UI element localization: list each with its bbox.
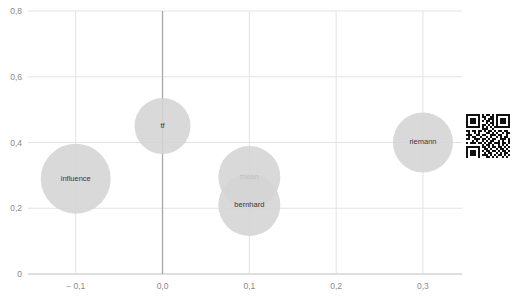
x-tick-label: 0,3 [417, 281, 429, 291]
bubble-label: influence [61, 174, 91, 183]
x-tick-label: 0,0 [157, 281, 169, 291]
bubble-point: tf [135, 98, 191, 154]
bubble-chart: influencetfmeanbernhardriemann − 0,10,00… [0, 0, 516, 301]
y-tick-label: 0 [17, 269, 22, 279]
bubble-point: riemann [393, 113, 453, 173]
bubble-label: riemann [409, 137, 436, 146]
x-axis-tick-labels: − 0,10,00,10,20,3 [66, 281, 429, 291]
qr-code-icon [466, 114, 510, 158]
x-tick-label: 0,1 [243, 281, 255, 291]
x-tick-label: − 0,1 [66, 281, 85, 291]
bubble-label: bernhard [234, 200, 264, 209]
bubble-point: influence [41, 144, 111, 214]
y-tick-label: 0,8 [10, 6, 22, 16]
y-tick-label: 0,4 [10, 138, 22, 148]
y-tick-label: 0,2 [10, 203, 22, 213]
y-tick-label: 0,6 [10, 72, 22, 82]
y-axis-tick-labels: 00,20,40,60,8 [10, 6, 22, 279]
bubble-chart-screenshot: influencetfmeanbernhardriemann − 0,10,00… [0, 0, 516, 301]
bubble-point: bernhard [218, 174, 280, 236]
bubble-series: influencetfmeanbernhardriemann [41, 98, 453, 236]
x-tick-label: 0,2 [330, 281, 342, 291]
